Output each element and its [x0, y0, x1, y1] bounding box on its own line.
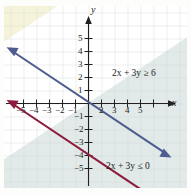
y-tick--1: −1 [74, 111, 84, 121]
y-tick--4: −4 [74, 150, 84, 160]
y-tick--3: −3 [74, 137, 84, 147]
grid-lines [4, 6, 187, 188]
annotation-lower-inequality: 2x + 3y ≤ 0 [106, 161, 150, 171]
y-tick-1: 1 [78, 85, 83, 95]
y-tick--2: −2 [74, 124, 84, 134]
graph-canvas [0, 0, 191, 194]
x-tick--5: −5 [16, 105, 26, 115]
annotation-upper-inequality: 2x + 3y ≥ 6 [112, 68, 156, 78]
x-tick-3: 3 [112, 105, 117, 115]
plot-area [0, 0, 191, 194]
x-tick--4: −4 [29, 105, 39, 115]
x-axis-label: x [172, 97, 176, 108]
y-tick-4: 4 [78, 46, 83, 56]
x-tick-5: 5 [138, 105, 143, 115]
inequality-graph-figure: x y −5 −4 −3 −2 −1 2 3 4 5 5 4 3 2 1 −1 … [0, 0, 191, 194]
y-tick-3: 3 [78, 59, 83, 69]
y-tick-2: 2 [78, 72, 83, 82]
x-tick--2: −2 [55, 105, 65, 115]
x-tick-4: 4 [125, 105, 130, 115]
y-tick-5: 5 [78, 33, 83, 43]
y-axis-label: y [91, 4, 95, 15]
x-tick-2: 2 [99, 105, 104, 115]
y-tick--5: −5 [74, 163, 84, 173]
x-tick--3: −3 [42, 105, 52, 115]
